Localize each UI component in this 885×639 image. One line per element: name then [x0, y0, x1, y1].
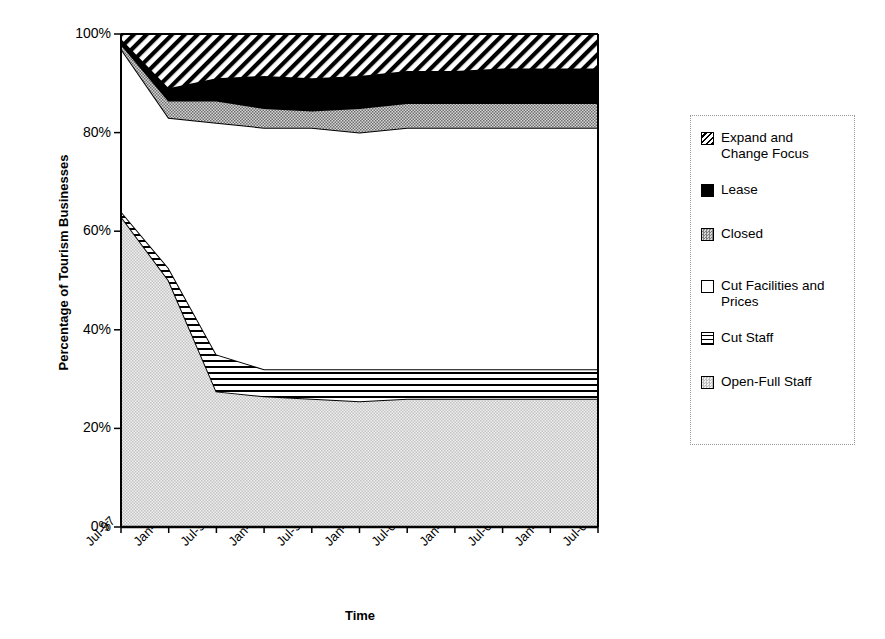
legend-item-label: Open-Full Staff — [721, 374, 812, 390]
horizontal-lines-swatch — [701, 332, 714, 345]
gray-stipple-swatch — [701, 228, 714, 241]
legend-item[interactable]: Expand and Change Focus — [701, 130, 809, 162]
black-swatch — [701, 184, 714, 197]
legend-item-label: Expand and Change Focus — [721, 130, 809, 162]
legend-item-label: Closed — [721, 226, 763, 242]
chart-root: Percentage of Tourism Businesses Time 10… — [0, 0, 885, 639]
chart-legend: Expand and Change FocusLeaseClosedCut Fa… — [690, 115, 855, 445]
legend-item[interactable]: Lease — [701, 182, 758, 198]
legend-item-label: Cut Facilities and Prices — [721, 278, 825, 310]
legend-item-label: Cut Staff — [721, 330, 773, 346]
legend-item[interactable]: Cut Staff — [701, 330, 773, 346]
area-series-group — [121, 34, 598, 527]
legend-item[interactable]: Cut Facilities and Prices — [701, 278, 825, 310]
light-gray-stipple-swatch — [701, 376, 714, 389]
diagonal-hatch-swatch — [701, 132, 714, 145]
white-swatch — [701, 280, 714, 293]
legend-item[interactable]: Closed — [701, 226, 763, 242]
legend-item-label: Lease — [721, 182, 758, 198]
legend-item[interactable]: Open-Full Staff — [701, 374, 812, 390]
